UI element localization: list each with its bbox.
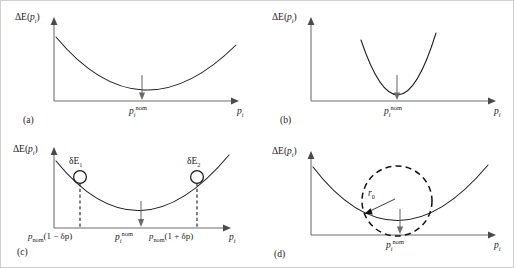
nominal-point-label: pinom (129, 105, 147, 118)
nominal-point-label: pinom (115, 231, 133, 244)
left-tick-label: pnom(1 − δp) (28, 232, 72, 243)
y-axis-label: ΔE(pi) (272, 13, 297, 24)
y-axis-label: ΔE(pi) (272, 147, 297, 158)
osculating-circle (362, 166, 432, 236)
y-axis-label: ΔE(pi) (15, 13, 40, 24)
panel-letter-c: (c) (17, 247, 28, 257)
energy-curve (361, 33, 436, 95)
radius-arrowhead (365, 208, 373, 214)
marker-point-1 (74, 171, 87, 184)
panel-d: ΔE(pi) pi r0 pinom (d) (258, 135, 514, 268)
x-axis-arrowhead (231, 98, 239, 105)
x-axis-arrowhead (488, 232, 496, 239)
panel-letter-a: (a) (23, 115, 34, 125)
nominal-point-label: pinom (386, 239, 404, 252)
panel-b: ΔE(pi) pi pinom (b) (258, 1, 514, 135)
figure-container: ΔE(pi) pi pinom (a) ΔE(pi) pi pinom (b) (0, 0, 514, 268)
x-axis-label: pi (237, 107, 244, 118)
minimum-pointer-arrowhead (139, 93, 145, 101)
minimum-pointer-arrowhead (397, 227, 403, 235)
x-axis-label: pi (494, 241, 501, 252)
panel-c: ΔE(pi) pi δE1 δE2 pnom(1 − δp) pnom(1 + … (1, 135, 258, 268)
x-axis-label: pi (229, 233, 236, 244)
y-axis-arrowhead (51, 147, 58, 155)
y-axis-label: ΔE(pi) (13, 145, 38, 156)
marker-point-2 (191, 171, 204, 184)
minimum-pointer-arrowhead (138, 219, 144, 227)
delta-e1-label: δE1 (69, 157, 82, 168)
panel-letter-d: (d) (274, 249, 285, 259)
panel-a: ΔE(pi) pi pinom (a) (1, 1, 258, 135)
right-tick-label: pnom(1 + δp) (149, 232, 193, 243)
delta-e2-label: δE2 (187, 157, 200, 168)
minimum-pointer-arrowhead (394, 93, 400, 101)
y-axis-arrowhead (308, 151, 315, 159)
y-axis-arrowhead (308, 17, 315, 25)
radius-label: r0 (368, 189, 375, 200)
y-axis-arrowhead (51, 17, 58, 25)
radius-line (370, 199, 395, 211)
x-axis-arrowhead (223, 225, 231, 232)
x-axis-arrowhead (488, 98, 496, 105)
x-axis-label: pi (494, 107, 501, 118)
energy-curve (56, 37, 236, 90)
panel-c-plot (1, 135, 258, 268)
panel-letter-b: (b) (280, 115, 291, 125)
nominal-point-label: pinom (384, 105, 402, 118)
